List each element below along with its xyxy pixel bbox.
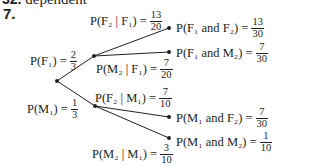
fraction: 310 — [160, 143, 173, 165]
label-p-f1-and-f2: P(F₁ and F₂) = 1330 — [176, 17, 264, 39]
node-m1-m2 — [167, 136, 171, 140]
fraction: 1330 — [251, 17, 264, 39]
fraction: 1320 — [150, 10, 163, 32]
node-m1-f2 — [167, 115, 171, 119]
label-p-m1-and-m2: P(M₁ and M₂) = 110 — [176, 131, 272, 153]
node-f1-f2 — [167, 26, 171, 30]
label-p-f2-given-m1: P(F₂ | M₁) = 710 — [95, 87, 172, 109]
root-node — [55, 79, 59, 83]
label-p-f1: P(F₁) = 23 — [30, 50, 77, 72]
branch-f1-f2 — [94, 28, 169, 56]
fraction: 710 — [159, 87, 172, 109]
fraction: 23 — [70, 50, 77, 72]
label-p-m2-given-f1: P(M₂ | F₁) = 720 — [96, 58, 173, 80]
label-p-m2-given-m1: P(M₂ | M₁) = 310 — [92, 143, 173, 165]
branch-f1-m2 — [94, 52, 169, 56]
branch-m1-m2 — [95, 106, 169, 138]
node-f1-m2 — [167, 50, 171, 54]
label-p-m1-and-f2: P(M₁ and F₂) = 730 — [176, 107, 268, 129]
fraction: 730 — [256, 107, 269, 129]
fraction: 110 — [260, 131, 273, 153]
label-p-f1-and-m2: P(F₁ and M₂) = 730 — [176, 42, 268, 64]
fraction: 720 — [160, 58, 173, 80]
fraction: 13 — [71, 98, 78, 120]
label-p-m1: P(M₁) = 13 — [27, 98, 78, 120]
fraction: 730 — [256, 42, 269, 64]
label-p-f2-given-f1: P(F₂ | F₁) = 1320 — [90, 10, 162, 32]
